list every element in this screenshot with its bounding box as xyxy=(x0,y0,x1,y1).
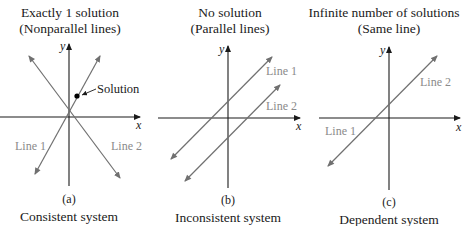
panel-b-title-line2: (Parallel lines) xyxy=(190,21,269,36)
panel-c-sublabel: (c) xyxy=(382,195,395,209)
line-1 xyxy=(35,56,100,174)
y-axis-label: y xyxy=(379,43,386,57)
panel-a-title-line1: Exactly 1 solution xyxy=(21,5,119,20)
panel-a-title-line2: (Nonparallel lines) xyxy=(19,21,121,36)
linear-systems-diagram: Exactly 1 solution (Nonparallel lines) x… xyxy=(0,0,462,226)
line-2-label: Line 2 xyxy=(420,75,451,89)
panel-b-sublabel: (b) xyxy=(221,193,235,207)
line-1-label: Line 1 xyxy=(266,64,297,78)
panel-a: Exactly 1 solution (Nonparallel lines) x… xyxy=(0,5,142,224)
solution-label: Solution xyxy=(97,82,140,96)
panel-b-title-line1: No solution xyxy=(198,5,262,20)
panel-c-caption: Dependent system xyxy=(339,212,439,226)
panel-c-title-line2: (Same line) xyxy=(358,21,421,36)
line-2-label: Line 2 xyxy=(266,99,297,113)
panel-c-title-line1: Infinite number of solutions xyxy=(308,5,459,20)
panel-a-sublabel: (a) xyxy=(62,192,75,206)
y-axis-label: y xyxy=(59,39,66,53)
solution-point xyxy=(74,93,79,98)
solution-pointer xyxy=(82,89,96,95)
y-axis-label: y xyxy=(218,42,225,56)
line-1-label: Line 1 xyxy=(15,139,46,153)
same-line xyxy=(328,56,437,166)
x-axis-label: x xyxy=(135,118,142,132)
x-axis-label: x xyxy=(295,119,302,133)
line-2-label: Line 2 xyxy=(111,139,142,153)
panel-b: No solution (Parallel lines) x y Line 1 … xyxy=(158,5,302,225)
x-axis-label: x xyxy=(455,120,462,134)
panel-c: Infinite number of solutions (Same line)… xyxy=(308,5,462,226)
line-1-label: Line 1 xyxy=(325,124,356,138)
panel-b-caption: Inconsistent system xyxy=(175,210,282,225)
panel-a-caption: Consistent system xyxy=(20,209,118,224)
